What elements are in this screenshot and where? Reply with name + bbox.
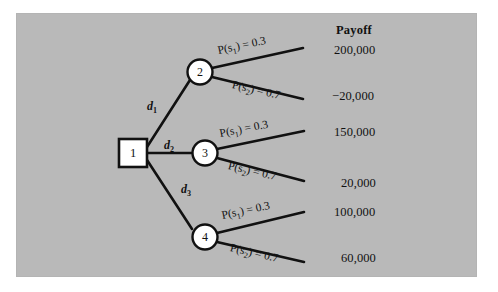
d2-sub: 2: [170, 145, 174, 154]
branch-label-d1: d1: [147, 100, 157, 115]
d1-sub: 1: [153, 106, 157, 115]
decision-node-1-label: 1: [119, 147, 147, 160]
decision-tree-figure: 1 2 3 4 d1 d2 d3 P(s1) = 0.3 P(s2) = 0.7…: [0, 0, 498, 292]
payoff-node4-s1: 100,000: [334, 206, 375, 219]
branch-label-d3: d3: [181, 183, 191, 198]
payoff-node3-s2: 20,000: [341, 177, 376, 190]
payoff-node4-s2: 60,000: [341, 252, 376, 265]
chance-node-4-label: 4: [193, 231, 217, 243]
payoff-node2-s2: −20,000: [332, 90, 374, 103]
payoff-node2-s1: 200,000: [334, 44, 375, 57]
chance-node-2-label: 2: [188, 66, 212, 78]
prob-prefix: P(s: [216, 41, 233, 56]
payoff-node3-s1: 150,000: [334, 126, 375, 139]
prob-prefix: P(s: [218, 124, 235, 139]
d3-sub: 3: [187, 189, 191, 198]
branch-label-d2: d2: [164, 139, 174, 154]
prob-prefix: P(s: [220, 206, 237, 221]
chance-node-3-label: 3: [193, 147, 217, 159]
payoff-column-header: Payoff: [336, 24, 372, 37]
